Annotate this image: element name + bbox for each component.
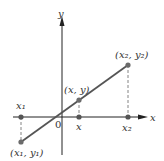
coordinate-diagram: y x 0 x₁ x x₂ (x, y) (x₂, y₂) (x₁, y₁) (0, 0, 164, 161)
x-axis-arrow-icon (138, 115, 148, 120)
point-x-on-axis (76, 114, 81, 119)
tick-label-x: x (76, 121, 82, 132)
line-segment (21, 65, 128, 142)
x-axis-label: x (150, 112, 156, 123)
point-p2 (125, 62, 130, 67)
point-p1 (18, 139, 23, 144)
origin-label: 0 (55, 119, 61, 130)
point-label-p1: (x₁, y₁) (10, 147, 44, 158)
point-label-p2: (x₂, y₂) (115, 49, 149, 60)
tick-label-x1: x₁ (16, 100, 26, 111)
tick-label-x2: x₂ (122, 122, 132, 133)
point-x1-on-axis (18, 114, 23, 119)
point-x2-on-axis (125, 114, 130, 119)
point-p (76, 97, 81, 102)
point-label-p: (x, y) (64, 84, 90, 95)
y-axis-label: y (57, 8, 64, 19)
